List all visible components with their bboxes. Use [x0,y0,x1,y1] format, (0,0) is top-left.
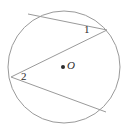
angle-2-label: 2 [21,71,27,82]
geometry-canvas [0,0,132,134]
center-point-dot [61,65,65,69]
angle-1-label: 1 [84,24,90,35]
geometry-figure: 1 2 O [0,0,132,134]
center-label-o: O [67,60,75,71]
chord-top [28,14,107,30]
